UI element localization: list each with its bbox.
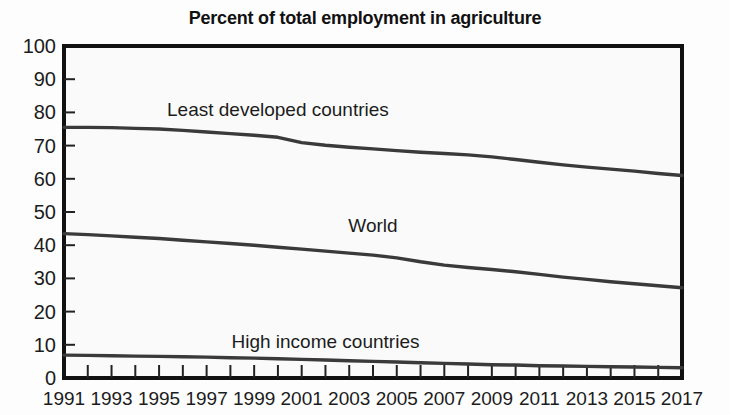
y-tick-label: 90 xyxy=(34,68,56,90)
y-tick-label: 20 xyxy=(34,301,56,323)
x-axis-tick-labels: 1991199319951997199920012003200520072009… xyxy=(43,388,703,409)
x-tick-label: 2009 xyxy=(471,388,513,409)
x-tick-label: 2011 xyxy=(519,388,560,409)
x-tick-label: 2015 xyxy=(613,388,655,409)
y-tick-label: 70 xyxy=(34,135,56,157)
x-tick-label: 2007 xyxy=(423,388,465,409)
chart-figure: Percent of total employment in agricultu… xyxy=(0,0,730,415)
x-tick-label: 1999 xyxy=(233,388,275,409)
y-tick-label: 50 xyxy=(34,201,56,223)
series-label-world: World xyxy=(348,215,397,236)
y-tick-label: 40 xyxy=(34,234,56,256)
x-tick-label: 1995 xyxy=(138,388,180,409)
y-tick-label: 80 xyxy=(34,101,56,123)
y-tick-label: 60 xyxy=(34,168,56,190)
y-tick-label: 30 xyxy=(34,267,56,289)
y-tick-label: 10 xyxy=(34,334,56,356)
x-tick-label: 1991 xyxy=(43,388,85,409)
x-tick-label: 2017 xyxy=(661,388,703,409)
x-tick-label: 1997 xyxy=(185,388,227,409)
series-label-high-income-countries: High income countries xyxy=(231,331,419,352)
x-tick-label: 2013 xyxy=(566,388,608,409)
x-tick-label: 2001 xyxy=(281,388,323,409)
y-tick-label: 100 xyxy=(23,35,56,57)
x-tick-label: 2005 xyxy=(376,388,418,409)
x-tick-label: 2003 xyxy=(328,388,370,409)
plot-area-frame xyxy=(64,46,682,378)
y-axis-tick-labels: 0102030405060708090100 xyxy=(23,35,56,389)
series-label-least-developed-countries: Least developed countries xyxy=(167,99,389,120)
x-tick-label: 1993 xyxy=(90,388,132,409)
line-chart-plot: 0102030405060708090100 19911993199519971… xyxy=(0,0,730,415)
y-tick-label: 0 xyxy=(45,367,56,389)
